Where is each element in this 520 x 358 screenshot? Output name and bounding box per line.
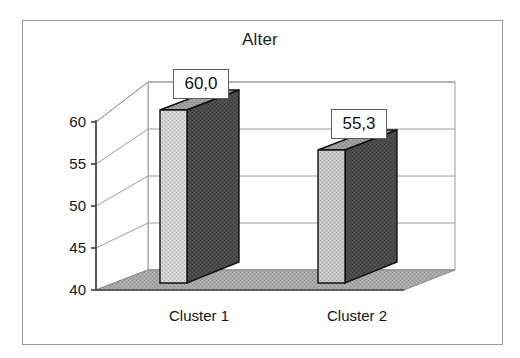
plot-floor [96,270,455,290]
y-tick-label-40: 40 [44,282,86,297]
y-tick-label-60: 60 [44,114,86,129]
chart-screenshot: Alter [0,0,520,358]
category-label-cluster-1: Cluster 1 [129,308,269,323]
y-tick-label-55: 55 [44,156,86,171]
plot-left-wall [96,82,148,290]
bar-cluster-1[interactable] [160,90,239,283]
category-label-cluster-2: Cluster 2 [287,308,427,323]
y-tick-label-50: 50 [44,198,86,213]
y-tick-label-45: 45 [44,240,86,255]
data-label-cluster-2: 55,3 [331,109,387,139]
bar-cluster-2[interactable] [318,130,397,283]
data-label-cluster-1: 60,0 [173,69,229,99]
chart-plot-area [0,0,520,358]
